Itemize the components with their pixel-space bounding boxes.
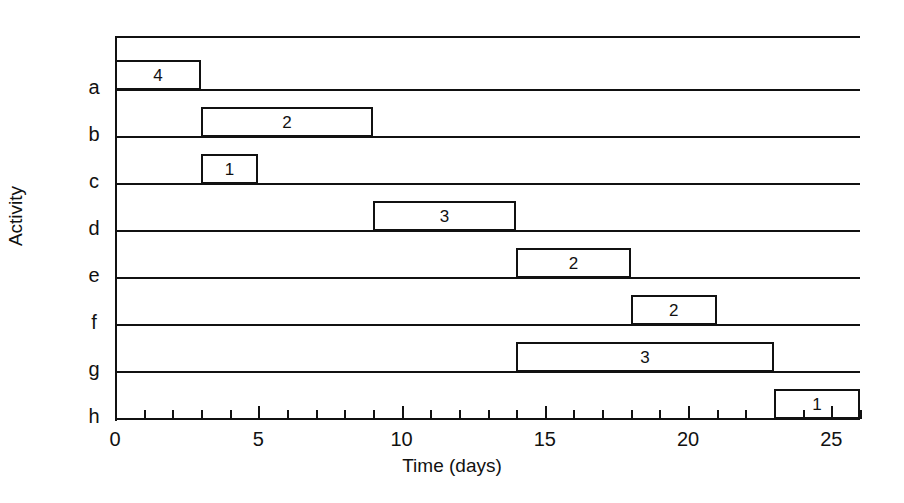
x-tick-16 bbox=[573, 410, 575, 419]
x-tick-3 bbox=[201, 410, 203, 419]
x-tick-26 bbox=[860, 410, 862, 419]
gantt-bar-d[interactable]: 3 bbox=[373, 201, 516, 231]
gantt-bar-label-d: 3 bbox=[440, 208, 449, 225]
x-tick-14 bbox=[516, 410, 518, 419]
y-tick-label-f: f bbox=[82, 311, 106, 334]
gantt-bar-b[interactable]: 2 bbox=[201, 107, 373, 137]
x-tick-23 bbox=[774, 410, 776, 419]
x-tick-10 bbox=[402, 406, 404, 419]
x-tick-6 bbox=[287, 410, 289, 419]
x-tick-20 bbox=[688, 406, 690, 419]
gantt-bar-label-c: 1 bbox=[225, 161, 234, 178]
x-tick-21 bbox=[717, 410, 719, 419]
gantt-bar-c[interactable]: 1 bbox=[201, 154, 258, 184]
gantt-bar-label-f: 2 bbox=[669, 302, 678, 319]
x-tick-7 bbox=[316, 410, 318, 419]
y-tick-label-g: g bbox=[82, 358, 106, 381]
y-tick-label-h: h bbox=[82, 405, 106, 428]
y-tick-label-b: b bbox=[82, 123, 106, 146]
x-tick-label-20: 20 bbox=[668, 428, 708, 451]
y-tick-label-d: d bbox=[82, 217, 106, 240]
y-tick-label-c: c bbox=[82, 170, 106, 193]
gridline-e bbox=[115, 277, 860, 279]
x-tick-11 bbox=[430, 410, 432, 419]
x-tick-9 bbox=[373, 410, 375, 419]
gantt-bar-h[interactable]: 1 bbox=[774, 389, 860, 419]
x-tick-12 bbox=[459, 410, 461, 419]
x-tick-24 bbox=[803, 410, 805, 419]
x-tick-8 bbox=[344, 410, 346, 419]
gantt-bar-e[interactable]: 2 bbox=[516, 248, 631, 278]
y-tick-label-a: a bbox=[82, 76, 106, 99]
x-tick-18 bbox=[631, 410, 633, 419]
gantt-chart: 42132231 abcdefgh 0510152025 Activity Ti… bbox=[0, 0, 904, 503]
x-tick-19 bbox=[659, 410, 661, 419]
x-tick-13 bbox=[488, 410, 490, 419]
gantt-bar-label-h: 1 bbox=[812, 396, 821, 413]
x-tick-25 bbox=[831, 406, 833, 419]
x-tick-label-10: 10 bbox=[382, 428, 422, 451]
gantt-bar-f[interactable]: 2 bbox=[631, 295, 717, 325]
x-tick-1 bbox=[144, 410, 146, 419]
x-tick-2 bbox=[172, 410, 174, 419]
x-tick-label-25: 25 bbox=[811, 428, 851, 451]
x-tick-label-5: 5 bbox=[238, 428, 278, 451]
x-tick-22 bbox=[745, 410, 747, 419]
x-tick-17 bbox=[602, 410, 604, 419]
gantt-bar-a[interactable]: 4 bbox=[115, 60, 201, 90]
gantt-bar-g[interactable]: 3 bbox=[516, 342, 774, 372]
gantt-bar-label-e: 2 bbox=[569, 255, 578, 272]
gantt-bar-label-a: 4 bbox=[153, 67, 162, 84]
y-axis-title: Activity bbox=[5, 186, 27, 246]
x-axis-title: Time (days) bbox=[0, 455, 904, 477]
x-tick-0 bbox=[115, 406, 117, 419]
gridline-f bbox=[115, 324, 860, 326]
gantt-bar-label-g: 3 bbox=[640, 349, 649, 366]
plot-area: 42132231 bbox=[115, 38, 860, 419]
x-tick-5 bbox=[258, 406, 260, 419]
x-tick-4 bbox=[230, 410, 232, 419]
gantt-bar-label-b: 2 bbox=[282, 114, 291, 131]
y-tick-label-e: e bbox=[82, 264, 106, 287]
gridline-a bbox=[115, 89, 860, 91]
x-tick-15 bbox=[545, 406, 547, 419]
x-tick-label-0: 0 bbox=[95, 428, 135, 451]
x-tick-label-15: 15 bbox=[525, 428, 565, 451]
